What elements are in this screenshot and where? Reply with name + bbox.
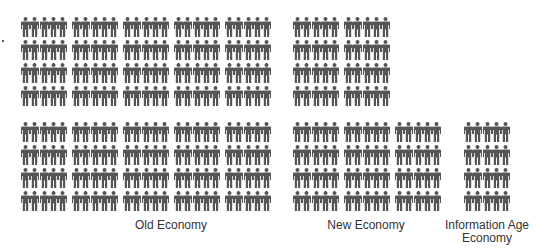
person-icon — [302, 40, 311, 60]
person-icon — [40, 145, 49, 165]
person-icon — [473, 191, 482, 211]
figure-cell — [344, 145, 390, 165]
person-icon — [72, 145, 81, 165]
person-icon — [344, 40, 353, 60]
person-icon — [211, 122, 220, 142]
person-icon — [501, 191, 510, 211]
person-icon — [183, 191, 192, 211]
person-icon — [91, 86, 100, 106]
person-icon — [501, 168, 510, 188]
person-icon — [202, 191, 211, 211]
person-icon — [81, 63, 90, 83]
person-icon — [381, 168, 390, 188]
person-icon — [183, 63, 192, 83]
person-icon — [202, 63, 211, 83]
person-icon — [202, 122, 211, 142]
person-icon — [81, 145, 90, 165]
figure-cell — [174, 122, 220, 142]
person-icon — [160, 191, 169, 211]
person-icon — [253, 145, 262, 165]
person-icon — [423, 145, 432, 165]
person-icon — [473, 168, 482, 188]
person-icon — [225, 168, 234, 188]
person-icon — [81, 191, 90, 211]
person-icon — [404, 168, 413, 188]
person-icon — [142, 168, 151, 188]
figure-cell — [72, 63, 118, 83]
person-icon — [363, 40, 372, 60]
person-icon — [321, 191, 330, 211]
person-icon — [321, 122, 330, 142]
person-icon — [72, 122, 81, 142]
person-icon — [372, 40, 381, 60]
person-icon — [302, 122, 311, 142]
figure-cell — [123, 168, 169, 188]
person-icon — [109, 168, 118, 188]
person-icon — [225, 122, 234, 142]
person-icon — [193, 145, 202, 165]
person-icon — [72, 17, 81, 37]
person-icon — [100, 40, 109, 60]
person-icon — [202, 86, 211, 106]
person-icon — [262, 168, 271, 188]
person-icon — [81, 17, 90, 37]
figure-cell — [344, 122, 390, 142]
person-icon — [244, 63, 253, 83]
person-icon — [395, 168, 404, 188]
person-icon — [353, 63, 362, 83]
person-icon — [225, 145, 234, 165]
person-icon — [109, 40, 118, 60]
person-icon — [344, 122, 353, 142]
person-icon — [244, 86, 253, 106]
person-icon — [100, 191, 109, 211]
person-icon — [321, 40, 330, 60]
person-icon — [253, 168, 262, 188]
person-icon — [21, 122, 30, 142]
person-icon — [464, 191, 473, 211]
figure-cell — [72, 86, 118, 106]
person-icon — [234, 40, 243, 60]
person-icon — [363, 17, 372, 37]
person-icon — [183, 168, 192, 188]
person-icon — [363, 145, 372, 165]
figure-cell — [123, 191, 169, 211]
figure-cell — [174, 17, 220, 37]
person-icon — [253, 191, 262, 211]
figure-cell — [464, 191, 510, 211]
person-icon — [202, 40, 211, 60]
person-icon — [372, 145, 381, 165]
person-icon — [501, 122, 510, 142]
person-icon — [109, 122, 118, 142]
person-icon — [160, 86, 169, 106]
figure-cell — [174, 145, 220, 165]
figure-cell — [344, 63, 390, 83]
figure-cell — [72, 168, 118, 188]
person-icon — [123, 191, 132, 211]
person-icon — [293, 122, 302, 142]
person-icon — [91, 63, 100, 83]
label-old-economy: Old Economy — [96, 219, 246, 232]
person-icon — [330, 145, 339, 165]
figure-cell — [344, 191, 390, 211]
person-icon — [21, 168, 30, 188]
person-icon — [58, 145, 67, 165]
person-icon — [344, 86, 353, 106]
person-icon — [202, 168, 211, 188]
person-icon — [160, 168, 169, 188]
person-icon — [21, 17, 30, 37]
person-icon — [151, 86, 160, 106]
person-icon — [321, 17, 330, 37]
figure-cell — [123, 122, 169, 142]
person-icon — [492, 122, 501, 142]
person-icon — [363, 168, 372, 188]
person-icon — [123, 122, 132, 142]
person-icon — [174, 17, 183, 37]
figure-cell — [344, 40, 390, 60]
person-icon — [483, 145, 492, 165]
person-icon — [49, 122, 58, 142]
person-icon — [202, 17, 211, 37]
person-icon — [225, 86, 234, 106]
person-icon — [302, 191, 311, 211]
person-icon — [330, 40, 339, 60]
person-icon — [142, 191, 151, 211]
